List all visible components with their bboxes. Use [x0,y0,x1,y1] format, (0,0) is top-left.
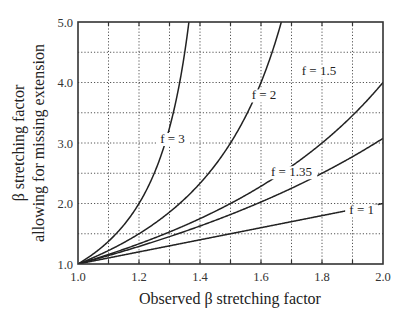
y-tick-label: 1.0 [57,258,73,272]
x-tick-label: 1.6 [253,270,269,284]
curve-label: f = 1 [349,202,374,217]
x-tick-label: 1.0 [70,270,86,284]
y-tick-label: 2.0 [57,197,73,211]
y-tick-label: 5.0 [57,16,73,30]
y-axis-title-line1: β stretching factor [10,84,28,201]
x-tick-label: 1.2 [131,270,147,284]
x-tick-label: 1.8 [314,270,330,284]
chart: 1.01.21.41.61.82.0 1.02.03.04.05.0 f = 1… [0,0,404,318]
curve-label: f = 1.5 [302,63,336,78]
curve-label: f = 2 [252,87,277,102]
x-axis-title: Observed β stretching factor [139,290,322,308]
y-tick-label: 3.0 [57,137,73,151]
y-axis-title-line2: allowing for missing extension [30,44,48,242]
curve-label: f = 3 [160,131,185,146]
x-tick-label: 2.0 [375,270,391,284]
y-tick-label: 4.0 [57,76,73,90]
x-tick-label: 1.4 [192,270,208,284]
curve-label: f = 1.35 [271,164,312,179]
y-ticks: 1.02.03.04.05.0 [57,16,73,272]
